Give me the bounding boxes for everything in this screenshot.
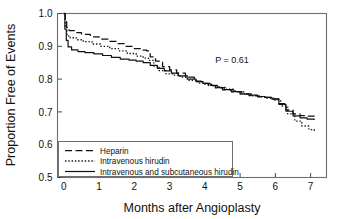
x-tick-label: 1 — [96, 181, 102, 192]
legend-label-1: Intravenous hirudin — [100, 157, 170, 166]
x-tick-label: 0 — [61, 181, 67, 192]
x-tick-label: 6 — [273, 181, 279, 192]
x-tick-label: 7 — [308, 181, 314, 192]
x-tick-label: 3 — [167, 181, 173, 192]
y-tick-label: 1.0 — [39, 8, 53, 19]
p-value-annotation: P = 0.61 — [215, 55, 249, 65]
y-tick-label: 0.6 — [39, 139, 53, 150]
chart-canvas: 0.50.60.70.80.91.0 01234567 Months after… — [0, 0, 348, 219]
x-tick-label: 4 — [202, 181, 208, 192]
y-tick-label: 0.9 — [39, 41, 53, 52]
x-tick-label: 2 — [132, 181, 138, 192]
y-tick-label: 0.7 — [39, 107, 53, 118]
legend-label-2: Intravenous and subcutaneous hirudin — [100, 168, 239, 177]
survival-curve-figure: 0.50.60.70.80.91.0 01234567 Months after… — [0, 0, 348, 219]
legend-label-0: Heparin — [100, 147, 129, 156]
x-axis-title: Months after Angioplasty — [124, 201, 262, 215]
y-tick-label: 0.8 — [39, 74, 53, 85]
y-tick-label: 0.5 — [39, 172, 53, 183]
x-tick-label: 5 — [237, 181, 243, 192]
y-axis-title: Proportion Free of Events — [4, 24, 18, 166]
